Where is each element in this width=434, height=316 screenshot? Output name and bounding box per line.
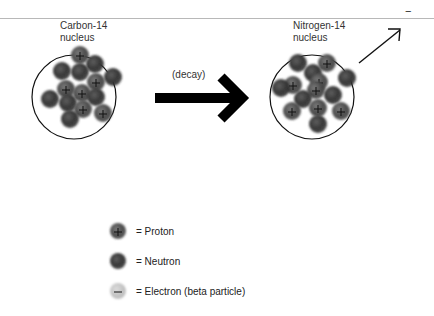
- decay-diagram-canvas: [0, 0, 434, 316]
- legend-item-neutron: = Neutron: [130, 250, 180, 272]
- proton-particle: [283, 102, 301, 120]
- legend-neutron-text: = Neutron: [136, 256, 180, 267]
- beta-emission-arrow: [359, 29, 400, 63]
- legend-proton-icon: [110, 223, 126, 239]
- legend-electron-text: = Electron (beta particle): [136, 286, 245, 297]
- nitrogen-14-nucleus: [270, 54, 356, 139]
- neutron-particle: [309, 115, 327, 133]
- neutron-particle: [104, 68, 122, 86]
- proton-particle: [332, 102, 350, 120]
- neutron-particle: [41, 90, 59, 108]
- decay-arrow-shaft: [155, 93, 235, 103]
- neutron-particle: [61, 110, 79, 128]
- legend-neutron-icon: [110, 253, 126, 269]
- proton-particle: [94, 104, 112, 122]
- legend-electron-icon: [110, 283, 126, 299]
- neutron-particle: [272, 79, 290, 97]
- proton-particle: [309, 99, 327, 117]
- proton-particle: [71, 46, 89, 64]
- neutron-particle: [324, 86, 342, 104]
- neutron-particle: [53, 62, 71, 80]
- legend-item-electron: = Electron (beta particle): [130, 280, 245, 302]
- legend-item-proton: = Proton: [130, 220, 174, 242]
- neutron-particle: [289, 54, 307, 72]
- legend-proton-text: = Proton: [136, 226, 174, 237]
- neutron-particle: [338, 69, 356, 87]
- neutron-particle: [71, 63, 89, 81]
- legend-icons: [110, 223, 126, 299]
- emission-arrow-line: [359, 30, 400, 63]
- carbon-14-nucleus: [32, 46, 122, 139]
- decay-arrow: [155, 77, 242, 119]
